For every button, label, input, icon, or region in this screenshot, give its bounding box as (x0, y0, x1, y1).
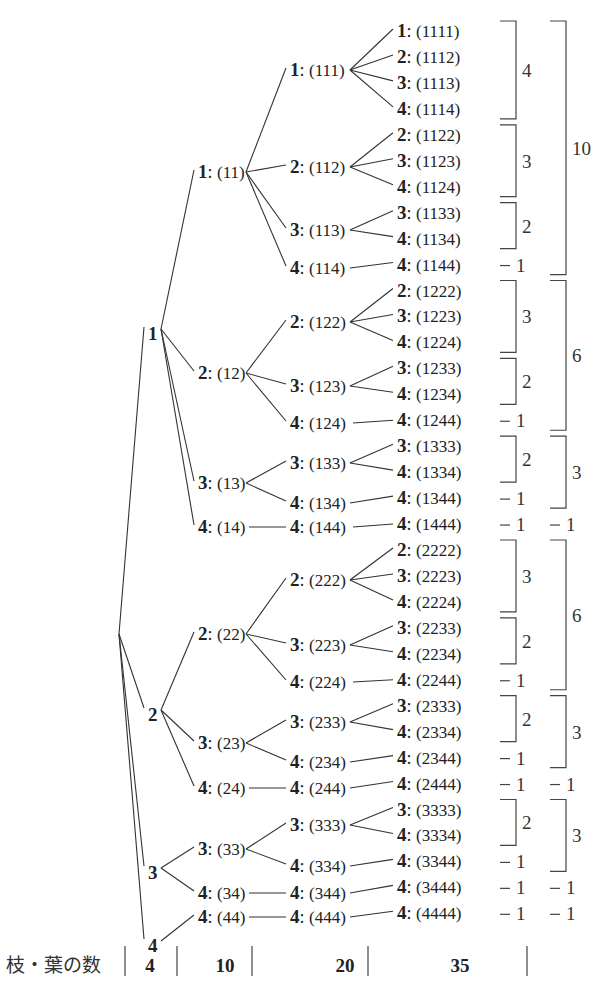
inner-count: 2 (522, 216, 532, 237)
inner-count: 1 (516, 903, 526, 924)
count-bracket (500, 281, 516, 353)
edge (350, 167, 393, 185)
outer-count: 1 (566, 774, 576, 795)
outer-count: 6 (572, 345, 582, 366)
leaf-1334: 4: (1334) (397, 461, 461, 482)
edge (246, 743, 286, 760)
leaf-3333: 3: (3333) (397, 799, 461, 820)
leaf-2244: 4: (2244) (397, 669, 461, 690)
outer-count: 10 (572, 138, 591, 159)
edge (350, 463, 393, 470)
node-l1-1: 1 (148, 323, 158, 344)
edge (246, 68, 286, 172)
edge (350, 230, 393, 237)
count-bracket (550, 800, 566, 872)
leaf-2233: 3: (2233) (397, 617, 461, 638)
tree-edges (119, 29, 393, 941)
edge (350, 645, 393, 652)
node-l2-13: 3: (13) (198, 472, 245, 493)
node-l2-23: 3: (23) (198, 732, 245, 753)
edge (350, 496, 393, 503)
node-l2-33: 3: (33) (198, 838, 245, 859)
edge (161, 847, 194, 868)
node-l2-11: 1: (11) (198, 161, 245, 182)
outer-count: 3 (572, 462, 582, 483)
edge (350, 133, 393, 167)
leaf-1224: 4: (1224) (397, 331, 461, 352)
node-l3-333: 3: (333) (290, 814, 346, 835)
leaf-4444: 4: (4444) (397, 902, 461, 923)
edge (350, 263, 393, 268)
edge (350, 211, 393, 230)
node-l3-123: 3: (123) (290, 375, 346, 396)
count-bracket (500, 21, 516, 119)
node-l3-234: 4: (234) (290, 751, 346, 772)
edge (246, 483, 286, 501)
edge (350, 756, 393, 762)
inner-count: 1 (516, 488, 526, 509)
node-l2-22: 2: (22) (198, 623, 245, 644)
leaf-2333: 3: (2333) (397, 695, 461, 716)
edge (350, 366, 393, 386)
footer-count-2: 20 (336, 955, 355, 976)
edge (246, 849, 286, 864)
node-l3-122: 2: (122) (290, 311, 346, 332)
edge (161, 868, 194, 891)
edge (350, 808, 393, 826)
leaf-2334: 4: (2334) (397, 721, 461, 742)
count-bracket (550, 696, 566, 768)
leaf-2344: 4: (2344) (397, 747, 461, 768)
leaf-1133: 3: (1133) (397, 202, 461, 223)
edge (246, 320, 286, 373)
tree-nodes: 12341: (11)2: (12)3: (13)4: (14)2: (22)3… (148, 20, 461, 956)
inner-count: 1 (516, 851, 526, 872)
count-bracket (550, 21, 566, 275)
outer-count: 6 (572, 605, 582, 626)
node-l2-44: 4: (44) (198, 906, 245, 927)
leaf-1244: 4: (1244) (397, 409, 461, 430)
footer-label: 枝・葉の数 (6, 954, 101, 976)
node-l3-334: 4: (334) (290, 855, 346, 876)
inner-count: 1 (516, 748, 526, 769)
inner-count: 1 (516, 410, 526, 431)
leaf-1444: 4: (1444) (397, 513, 461, 534)
edge (350, 722, 393, 730)
inner-count: 2 (522, 371, 532, 392)
edge (161, 710, 194, 786)
node-l3-134: 4: (134) (290, 492, 346, 513)
edge (119, 634, 144, 939)
inner-count: 2 (522, 631, 532, 652)
count-bracket (500, 800, 516, 846)
leaf-1113: 3: (1113) (397, 72, 460, 93)
node-l3-144: 4: (144) (290, 516, 346, 537)
edge (350, 825, 393, 833)
edge (350, 704, 393, 722)
leaf-2444: 4: (2444) (397, 773, 461, 794)
edge (353, 680, 393, 682)
outer-count: 1 (566, 877, 576, 898)
count-bracket (500, 540, 516, 612)
edge (246, 461, 286, 483)
outer-count: 1 (566, 903, 576, 924)
leaf-1111: 1: (1111) (397, 20, 459, 41)
node-l1-3: 3 (148, 862, 158, 883)
edge (161, 915, 194, 941)
edge (246, 373, 286, 384)
edge (246, 165, 286, 172)
node-l3-133: 3: (133) (290, 452, 346, 473)
edge (161, 329, 194, 481)
node-l3-222: 2: (222) (290, 569, 346, 590)
leaf-1122: 2: (1122) (397, 124, 461, 145)
leaf-3334: 4: (3334) (397, 824, 461, 845)
leaf-2234: 4: (2234) (397, 643, 461, 664)
inner-count: 2 (522, 812, 532, 833)
count-bracket (500, 203, 516, 249)
leaf-1114: 4: (1114) (397, 98, 460, 119)
node-l3-111: 1: (111) (290, 59, 345, 80)
edge (350, 885, 393, 893)
leaf-1233: 3: (1233) (397, 357, 461, 378)
count-bracket (500, 125, 516, 197)
node-l2-12: 2: (12) (198, 362, 245, 383)
count-brackets: 4321321211321211211110631631311 (500, 21, 591, 924)
node-l3-244: 4: (244) (290, 777, 346, 798)
